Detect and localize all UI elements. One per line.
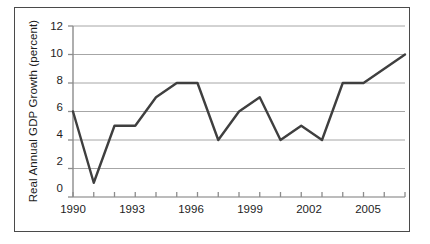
x-axis-ticks (73, 192, 405, 197)
plot-area (15, 8, 411, 233)
data-series-line (73, 55, 405, 183)
chart-figure: Real Annual GDP Growth (percent) 12 10 8… (14, 7, 410, 232)
